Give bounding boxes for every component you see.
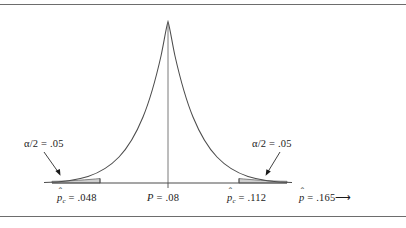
observed-value: .165 [316,192,335,203]
p-hat-symbol: ˆp [57,193,62,204]
equals-sign: = [307,192,313,203]
equals-sign: = [156,192,162,203]
hat-accent: ˆ [57,187,63,197]
equals-sign: = [238,192,244,203]
critical-left-value: .048 [77,192,96,203]
right-leader-arrow [266,152,280,176]
subscript-c: c [232,197,235,205]
figure-container: α/2 = .05 α/2 = .05 ˆpc = .048 P = .08 ˆ… [0,0,406,228]
alpha-right-label: α/2 = .05 [252,139,292,150]
observed-value-label: ˆp = .165⟶ [299,193,351,204]
critical-right-value: .112 [247,192,266,203]
p-hat-symbol: ˆp [227,193,232,204]
critical-right-label: ˆpc = .112 [227,193,266,205]
critical-left-label: ˆpc = .048 [57,193,97,205]
center-label: P = .08 [147,193,179,204]
hat-accent: ˆ [227,187,233,197]
alpha-left-label: α/2 = .05 [24,139,64,150]
right-arrow-icon: ⟶ [335,192,350,203]
left-leader-arrow [44,152,61,176]
subscript-c: c [62,197,65,205]
hat-accent: ˆ [299,187,305,197]
p-hat-symbol: ˆp [299,193,304,204]
equals-sign: = [68,192,74,203]
center-value: .08 [165,192,179,203]
P-base: P [147,192,154,203]
